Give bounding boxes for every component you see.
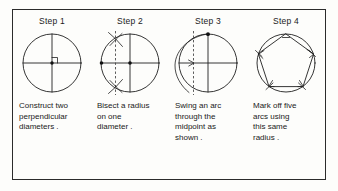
step-panel-2: Step 2 Bisect a radius on one diameter . [91,10,169,179]
step-caption-2: Bisect a radius on one diameter . [94,101,166,133]
center-dot-1 [50,61,53,64]
top-dot-3 [206,32,210,36]
step-heading-1: Step 1 [39,16,65,26]
left-endpoint-dot-2 [100,61,104,65]
diagram-2 [91,29,169,97]
diagram-3 [169,29,247,97]
step-heading-4: Step 4 [273,16,299,26]
step-panel-1: Step 1 Construct two perpendicular diame… [13,10,91,179]
circle-outline-4 [257,34,315,92]
step-panel-4: Step 4 Mark off five arcs using this sam… [247,10,325,179]
center-dot-2 [128,61,132,65]
step-heading-2: Step 2 [117,16,143,26]
step-heading-3: Step 3 [195,16,221,26]
figure-root: Step 1 Construct two perpendicular diame… [0,0,338,191]
step-caption-3: Swing an arc through the midpoint as sho… [172,101,244,143]
diagram-4 [247,29,325,97]
steps-row: Step 1 Construct two perpendicular diame… [13,10,325,179]
arrow-mark-bottom-left-4 [269,81,274,87]
step-caption-4: Mark off five arcs using this same radiu… [250,101,322,143]
diagram-1 [13,29,91,97]
step-caption-1: Construct two perpendicular diameters . [16,101,88,133]
step-panel-3: Step 3 Swing an arc through the midpoint… [169,10,247,179]
